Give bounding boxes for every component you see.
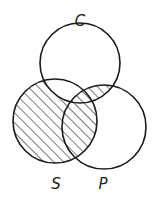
- label-s: S: [51, 175, 61, 193]
- label-c: C: [75, 12, 86, 30]
- label-p: P: [98, 175, 108, 193]
- venn-diagram: C S P: [0, 0, 160, 197]
